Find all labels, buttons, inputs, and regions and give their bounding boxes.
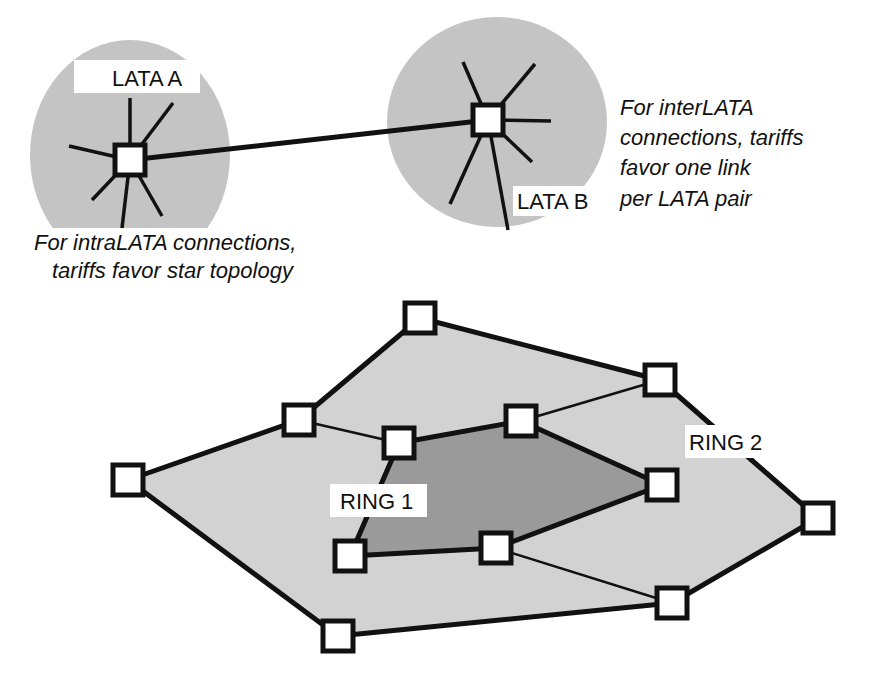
- ring-1-label: RING 1: [340, 489, 413, 514]
- lata-a-hub-node: [115, 145, 145, 175]
- inter-lata-caption-line2: connections, tariffs: [620, 125, 803, 150]
- lata-a-label: LATA A: [112, 66, 182, 91]
- ring-2-node: [284, 405, 314, 435]
- ring-1-node: [384, 428, 414, 458]
- intra-lata-caption-line1: For intraLATA connections,: [34, 230, 297, 255]
- inter-lata-caption-line3: favor one link: [620, 155, 752, 180]
- lata-b-hub-node: [473, 105, 503, 135]
- ring-1-node: [335, 541, 365, 571]
- ring-2-node: [803, 503, 833, 533]
- ring-2-node: [645, 365, 675, 395]
- ring-2-label: RING 2: [689, 430, 762, 455]
- intra-lata-caption-line2: tariffs favor star topology: [52, 258, 295, 283]
- lata-ring-diagram: LATA A LATA B For intraLATA connections,…: [0, 0, 878, 686]
- inter-lata-caption-line4: per LATA pair: [619, 186, 753, 211]
- ring-2-node: [657, 588, 687, 618]
- ring-1-node: [481, 533, 511, 563]
- inter-lata-caption-line1: For interLATA: [620, 95, 754, 120]
- ring-1-node: [506, 406, 536, 436]
- ring-1-node: [647, 470, 677, 500]
- ring-2-node: [405, 303, 435, 333]
- ring-2-node: [113, 465, 143, 495]
- ring-2-node: [323, 621, 353, 651]
- lata-b-label: LATA B: [517, 189, 588, 214]
